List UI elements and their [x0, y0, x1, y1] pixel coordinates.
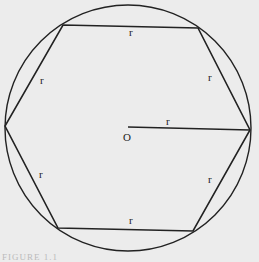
inscribed-hexagon — [5, 25, 250, 231]
circumscribed-circle — [5, 5, 251, 251]
figure-caption: FIGURE 1.1 — [2, 252, 58, 262]
side-label-top: r — [129, 26, 133, 38]
side-label-bottom: r — [129, 214, 133, 226]
side-label-upper-right: r — [208, 71, 212, 83]
radius-label: r — [166, 115, 170, 127]
radius-line — [128, 127, 250, 130]
center-label: O — [123, 131, 131, 143]
side-label-lower-left: r — [39, 168, 43, 180]
side-label-lower-right: r — [208, 173, 212, 185]
side-label-upper-left: r — [40, 74, 44, 86]
